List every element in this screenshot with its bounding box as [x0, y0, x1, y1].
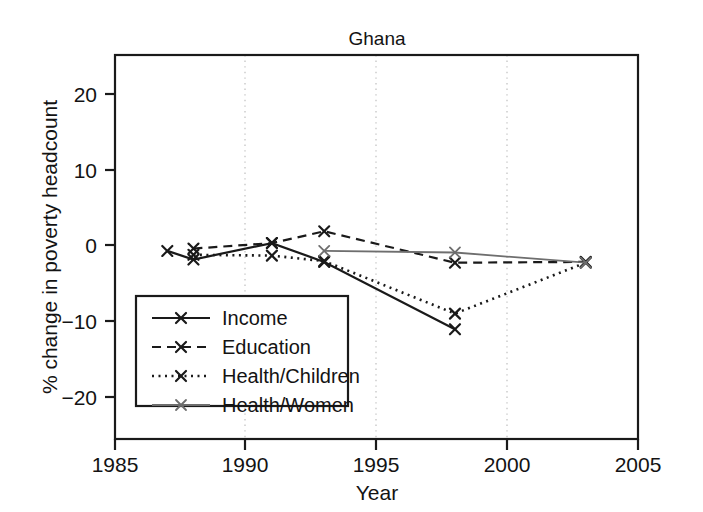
ytick-label-neg20: −20	[61, 386, 97, 409]
data-point-marker	[450, 309, 460, 319]
chart-figure: Ghana % change in poverty headcount Year…	[0, 0, 703, 512]
ytick-label-10: 10	[74, 159, 97, 182]
y-axis-ticks: 20 10 0 −10 −20	[61, 83, 115, 409]
x-axis-label: Year	[356, 481, 398, 504]
legend: IncomeEducationHealth/ChildrenHealth/Wom…	[136, 296, 360, 416]
series-health-women	[319, 246, 591, 268]
line-chart-svg: Ghana % change in poverty headcount Year…	[0, 0, 703, 512]
y-axis-label: % change in poverty headcount	[38, 100, 61, 394]
xtick-label-2000: 2000	[484, 453, 531, 476]
legend-label: Education	[222, 336, 311, 358]
data-point-marker	[450, 324, 460, 334]
data-point-marker	[267, 251, 277, 261]
legend-label: Health/Women	[222, 394, 354, 416]
legend-label: Income	[222, 307, 288, 329]
ytick-label-neg10: −10	[61, 310, 97, 333]
xtick-label-1985: 1985	[92, 453, 139, 476]
xtick-label-2005: 2005	[615, 453, 662, 476]
ytick-label-0: 0	[85, 234, 97, 257]
chart-title: Ghana	[348, 28, 405, 49]
xtick-label-1995: 1995	[353, 453, 400, 476]
x-axis-ticks: 1985 1990 1995 2000 2005	[92, 439, 662, 476]
ytick-label-20: 20	[74, 83, 97, 106]
xtick-label-1990: 1990	[222, 453, 269, 476]
legend-label: Health/Children	[222, 365, 360, 387]
